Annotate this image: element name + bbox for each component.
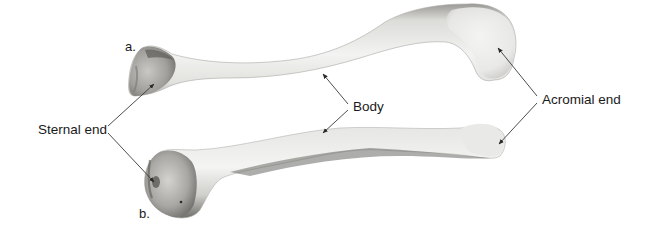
body-label: Body [353, 100, 384, 114]
clavicle-a-superior-view [129, 4, 516, 96]
sternal-end-label: Sternal end [38, 123, 107, 137]
panel-label-a: a. [125, 40, 136, 53]
clavicle-figure: a. b. Sternal end Body Acromial end [0, 0, 647, 239]
acromial-end-leader-b [499, 103, 537, 144]
sternal-end-leader-b [108, 133, 154, 182]
panel-label-b: b. [139, 207, 150, 220]
acromial-end-label: Acromial end [542, 93, 621, 107]
clavicle-b-body [145, 126, 506, 218]
clavicle-illustration [0, 0, 647, 239]
clavicle-b-inferior-view [145, 124, 506, 218]
body-leader-a [323, 74, 348, 104]
